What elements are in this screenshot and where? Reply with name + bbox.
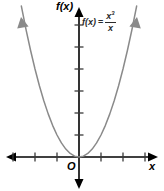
curve-right-arrowhead bbox=[129, 17, 140, 28]
x-axis-label: x bbox=[149, 161, 155, 172]
x-axis-left-arrowhead bbox=[6, 153, 16, 162]
equation-left-hand-side: f(x) bbox=[82, 18, 96, 27]
y-axis-label: f(x) bbox=[56, 1, 73, 12]
curve-left-arrowhead bbox=[17, 17, 28, 28]
function-equation-annotation: f(x) = x3 x bbox=[82, 12, 116, 34]
graph-figure: f(x) x O f(x) = x3 x bbox=[0, 0, 164, 191]
y-axis-bottom-arrowhead bbox=[75, 179, 84, 189]
origin-label: O bbox=[67, 161, 76, 172]
equation-equals-sign: = bbox=[98, 18, 103, 27]
equation-fraction: x3 x bbox=[105, 12, 115, 34]
equation-numerator-exponent: 3 bbox=[111, 10, 114, 16]
equation-denominator: x bbox=[107, 24, 114, 33]
equation-numerator: x3 bbox=[105, 12, 115, 21]
